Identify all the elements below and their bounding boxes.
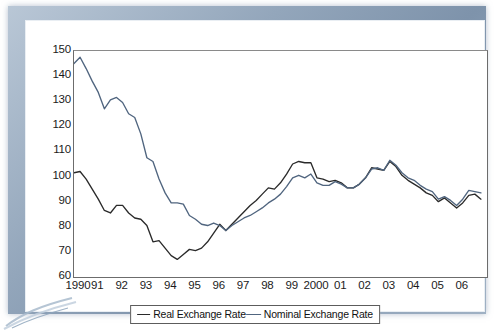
x-tick-label: 1990 xyxy=(66,280,91,292)
y-tick-label: 90 xyxy=(59,195,71,207)
chart-legend: Real Exchange Rate Nominal Exchange Rate xyxy=(130,305,380,324)
x-tick-label: 91 xyxy=(91,280,103,292)
x-tick-label: 2000 xyxy=(304,280,329,292)
x-axis-tick-labels: 19909192939495969798992000010203040506 xyxy=(73,280,486,296)
y-tick-label: 150 xyxy=(52,44,71,56)
y-tick-label: 130 xyxy=(52,94,71,106)
y-tick-label: 110 xyxy=(53,144,71,156)
x-tick-label: 93 xyxy=(140,280,152,292)
x-tick-label: 03 xyxy=(383,280,395,292)
x-tick-label: 97 xyxy=(237,280,249,292)
x-tick-label: 98 xyxy=(261,280,273,292)
x-tick-label: 02 xyxy=(358,280,370,292)
y-tick-label: 100 xyxy=(52,170,71,182)
legend-item-real: Real Exchange Rate xyxy=(137,308,246,320)
chart-canvas: 60708090100110120130140150 1990919293949… xyxy=(25,20,485,312)
legend-item-nominal: Nominal Exchange Rate xyxy=(246,308,373,320)
y-tick-label: 80 xyxy=(59,220,71,232)
legend-label-real: Real Exchange Rate xyxy=(153,308,246,320)
series-line-nominal xyxy=(74,57,481,230)
x-tick-label: 05 xyxy=(431,280,443,292)
x-tick-label: 04 xyxy=(407,280,419,292)
x-tick-label: 99 xyxy=(285,280,297,292)
x-tick-label: 94 xyxy=(164,280,176,292)
x-tick-label: 92 xyxy=(115,280,127,292)
x-tick-label: 01 xyxy=(334,280,346,292)
x-tick-label: 95 xyxy=(188,280,200,292)
legend-line-icon-real xyxy=(137,314,150,315)
chart-page: 60708090100110120130140150 1990919293949… xyxy=(0,0,494,330)
y-tick-label: 140 xyxy=(52,69,71,81)
plot-area xyxy=(73,50,488,278)
x-tick-label: 06 xyxy=(456,280,468,292)
y-tick-label: 120 xyxy=(52,119,71,131)
legend-label-nominal: Nominal Exchange Rate xyxy=(264,308,373,320)
page-border: 60708090100110120130140150 1990919293949… xyxy=(8,6,486,314)
legend-line-icon-nominal xyxy=(246,314,261,315)
series-line-real xyxy=(74,161,481,259)
x-tick-label: 96 xyxy=(213,280,225,292)
y-tick-label: 70 xyxy=(59,245,71,257)
y-axis-tick-labels: 60708090100110120130140150 xyxy=(35,44,71,282)
series-lines xyxy=(74,51,487,277)
